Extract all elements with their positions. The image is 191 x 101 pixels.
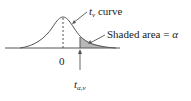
shaded-label-arrow [90,35,105,43]
curve-label: tν curve [89,6,122,19]
critical-value-label: tα,ν [74,79,86,92]
zero-tick-label: 0 [59,56,65,67]
curve-label-arrow [73,12,87,23]
shaded-area-label: Shaded area = α [107,29,178,40]
arrowhead-icon [78,49,82,54]
t-curve [20,17,116,48]
